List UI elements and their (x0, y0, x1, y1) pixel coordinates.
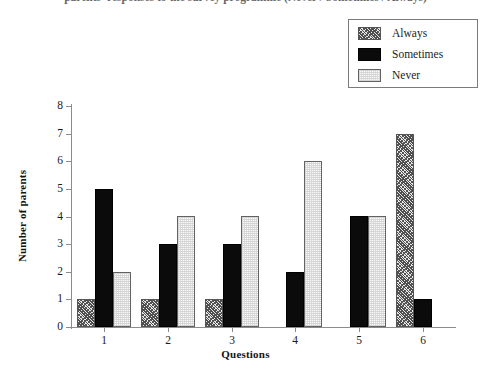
y-tick-label-text: 8 (46, 100, 63, 112)
y-tick (66, 134, 71, 135)
y-tick-label: 7 (46, 128, 63, 140)
x-tick (104, 328, 105, 332)
y-tick-label: 0 (46, 321, 63, 333)
plot-area (72, 106, 455, 327)
legend-label: Never (392, 68, 420, 83)
bar-sometimes-q2 (159, 244, 177, 327)
y-tick (66, 244, 71, 245)
y-tick (66, 161, 71, 162)
y-tick-label-text: 0 (46, 321, 63, 333)
x-tick-label: 5 (344, 334, 374, 346)
y-tick-label: 8 (46, 100, 63, 112)
y-tick-label-text: 2 (46, 266, 63, 278)
y-tick (66, 299, 71, 300)
legend-label: Sometimes (392, 47, 443, 62)
bar-chart: 012345678 123456 Number of parents Quest… (0, 0, 491, 380)
y-tick-label: 1 (46, 293, 63, 305)
legend-swatch-sometimes (358, 48, 381, 61)
y-tick-label: 5 (46, 183, 63, 195)
legend: AlwaysSometimesNever (348, 19, 478, 88)
bar-sometimes-q6 (414, 299, 432, 327)
x-tick-label: 2 (153, 334, 183, 346)
bar-always-q3 (205, 299, 223, 327)
legend-swatch-never (358, 69, 381, 82)
bar-always-q6 (396, 134, 414, 327)
bar-never-q5 (368, 216, 386, 327)
y-tick (66, 189, 71, 190)
x-tick (359, 328, 360, 332)
y-tick-label-text: 6 (46, 155, 63, 167)
bar-never-q3 (241, 216, 259, 327)
bar-sometimes-q4 (286, 272, 304, 327)
bar-never-q4 (304, 161, 322, 327)
y-tick-label-text: 5 (46, 183, 63, 195)
y-tick (66, 217, 71, 218)
y-tick-label-text: 3 (46, 238, 63, 250)
y-tick-label-text: 7 (46, 128, 63, 140)
y-tick-label: 2 (46, 266, 63, 278)
y-axis-title: Number of parents (16, 146, 28, 286)
x-tick (168, 328, 169, 332)
x-tick-label: 1 (89, 334, 119, 346)
legend-swatch-always (358, 27, 381, 40)
bar-never-q2 (177, 216, 195, 327)
y-tick-label-text: 4 (46, 211, 63, 223)
x-tick (423, 328, 424, 332)
y-tick-label-text: 1 (46, 293, 63, 305)
bar-always-q1 (77, 299, 95, 327)
bar-never-q1 (113, 272, 131, 327)
x-axis-title: Questions (0, 348, 491, 360)
y-tick-label: 6 (46, 155, 63, 167)
y-tick-label: 4 (46, 211, 63, 223)
x-axis-line (71, 327, 456, 328)
bar-always-q2 (141, 299, 159, 327)
legend-label: Always (392, 26, 427, 41)
x-tick (295, 328, 296, 332)
y-tick-label: 3 (46, 238, 63, 250)
bar-sometimes-q1 (95, 189, 113, 327)
x-tick-label: 3 (217, 334, 247, 346)
bar-sometimes-q3 (223, 244, 241, 327)
x-tick-label: 6 (408, 334, 438, 346)
y-tick (66, 272, 71, 273)
x-tick (232, 328, 233, 332)
y-tick (66, 106, 71, 107)
y-tick (66, 327, 71, 328)
bar-sometimes-q5 (350, 216, 368, 327)
x-tick-label: 4 (280, 334, 310, 346)
